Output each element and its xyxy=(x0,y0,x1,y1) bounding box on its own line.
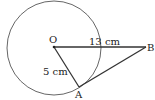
circle-tangent-diagram: O 13 cm B 5 cm A xyxy=(0,0,155,100)
label-ob: 13 cm xyxy=(89,36,121,47)
segment-ab xyxy=(79,47,146,87)
label-o: O xyxy=(49,34,57,45)
label-a: A xyxy=(74,89,83,100)
center-point xyxy=(53,46,56,49)
label-oa: 5 cm xyxy=(43,66,68,77)
label-b: B xyxy=(147,42,154,53)
